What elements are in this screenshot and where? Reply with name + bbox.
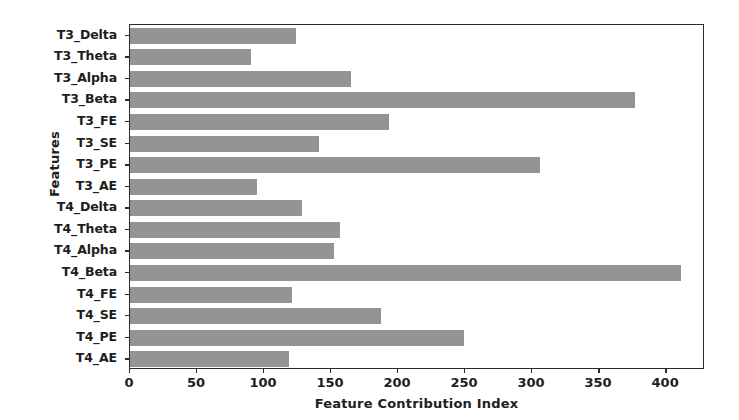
y-tick-label: T4_Beta (0, 264, 125, 279)
y-tick-label: T4_PE (0, 329, 125, 344)
bar (130, 243, 334, 259)
y-tick-label: T3_AE (0, 178, 125, 193)
x-tick-label: 150 (300, 375, 360, 390)
y-tick-label: T3_SE (0, 135, 125, 150)
x-axis-title: Feature Contribution Index (129, 396, 704, 411)
bar (130, 308, 381, 324)
bar (130, 92, 635, 108)
y-tick-label: T4_Delta (0, 199, 125, 214)
x-tick-label: 350 (568, 375, 628, 390)
bar (130, 179, 257, 195)
x-tick-label: 0 (99, 375, 159, 390)
x-tick-label: 250 (434, 375, 494, 390)
bar (130, 28, 296, 44)
x-tick-mark (330, 369, 331, 373)
bar (130, 287, 292, 303)
bar (130, 114, 389, 130)
x-tick-mark (196, 369, 197, 373)
bar (130, 136, 319, 152)
x-tick-mark (598, 369, 599, 373)
x-tick-mark (531, 369, 532, 373)
bar (130, 157, 540, 173)
x-tick-mark (665, 369, 666, 373)
plot-area (129, 24, 704, 369)
bar (130, 222, 340, 238)
x-tick-mark (129, 369, 130, 373)
bar (130, 71, 351, 87)
x-tick-mark (397, 369, 398, 373)
x-tick-label: 300 (501, 375, 561, 390)
y-tick-label: T3_Alpha (0, 70, 125, 85)
y-tick-label: T3_PE (0, 156, 125, 171)
y-tick-label: T4_SE (0, 307, 125, 322)
bar (130, 351, 289, 367)
y-tick-label: T3_FE (0, 113, 125, 128)
x-tick-label: 100 (233, 375, 293, 390)
chart-figure: Features T3_DeltaT3_ThetaT3_AlphaT3_Beta… (0, 0, 739, 420)
bar (130, 200, 302, 216)
x-tick-label: 400 (635, 375, 695, 390)
y-tick-label: T3_Theta (0, 48, 125, 63)
bar (130, 330, 464, 346)
y-tick-label: T4_AE (0, 350, 125, 365)
y-tick-label: T4_Alpha (0, 242, 125, 257)
bar-series (130, 25, 703, 368)
bar (130, 265, 681, 281)
y-tick-label: T3_Beta (0, 91, 125, 106)
x-tick-mark (263, 369, 264, 373)
x-tick-label: 200 (367, 375, 427, 390)
bar (130, 49, 251, 65)
y-tick-label: T4_FE (0, 286, 125, 301)
x-tick-mark (464, 369, 465, 373)
y-tick-label: T3_Delta (0, 27, 125, 42)
x-tick-label: 50 (166, 375, 226, 390)
y-tick-label: T4_Theta (0, 221, 125, 236)
